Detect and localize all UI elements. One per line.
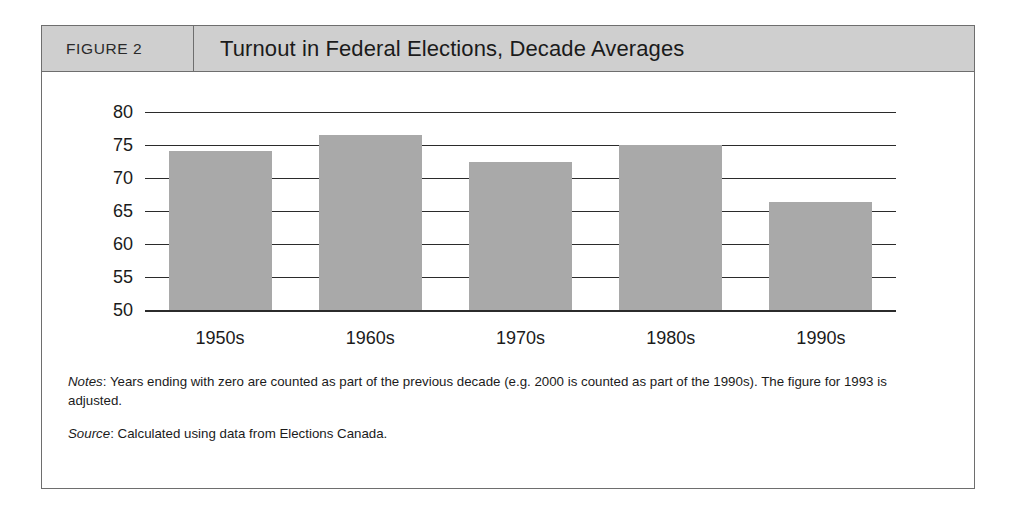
chart-region: 50556065707580 1950s1960s1970s1980s1990s [42, 72, 974, 372]
notes-lead-label: Notes [68, 374, 103, 389]
y-axis-tick-label: 55 [113, 267, 133, 288]
source-body-text: : Calculated using data from Elections C… [110, 426, 387, 441]
notes-region: Notes: Years ending with zero are counte… [42, 372, 974, 456]
x-axis-tick-label: 1980s [646, 328, 695, 349]
y-axis-tick-label: 60 [113, 234, 133, 255]
bar-1950s: 1950s [169, 151, 272, 310]
y-axis-tick-label: 80 [113, 102, 133, 123]
x-axis-tick-label: 1970s [496, 328, 545, 349]
bar-1970s: 1970s [469, 162, 572, 311]
y-axis-tick-label: 75 [113, 135, 133, 156]
figure-notes: Notes: Years ending with zero are counte… [68, 372, 928, 411]
notes-body-text: : Years ending with zero are counted as … [68, 374, 887, 408]
bar-1980s: 1980s [619, 145, 722, 310]
figure-source: Source: Calculated using data from Elect… [68, 424, 928, 443]
source-lead-label: Source [68, 426, 110, 441]
figure-header: FIGURE 2 Turnout in Federal Elections, D… [42, 26, 974, 72]
y-axis-tick-label: 70 [113, 168, 133, 189]
axis-baseline [145, 310, 896, 312]
figure-container: FIGURE 2 Turnout in Federal Elections, D… [41, 25, 975, 489]
figure-number-label: FIGURE 2 [66, 40, 142, 58]
figure-title-cell: Turnout in Federal Elections, Decade Ave… [194, 26, 974, 71]
bars-layer: 1950s1960s1970s1980s1990s [145, 112, 896, 310]
y-axis-tick-label: 65 [113, 201, 133, 222]
bar-1990s: 1990s [769, 202, 872, 310]
y-axis-tick-label: 50 [113, 300, 133, 321]
x-axis-tick-label: 1950s [196, 328, 245, 349]
bar-1960s: 1960s [319, 135, 422, 310]
x-axis-tick-label: 1960s [346, 328, 395, 349]
figure-number-cell: FIGURE 2 [42, 26, 194, 71]
x-axis-tick-label: 1990s [796, 328, 845, 349]
figure-title: Turnout in Federal Elections, Decade Ave… [220, 36, 684, 62]
bar-chart-plot: 50556065707580 1950s1960s1970s1980s1990s [145, 112, 896, 310]
